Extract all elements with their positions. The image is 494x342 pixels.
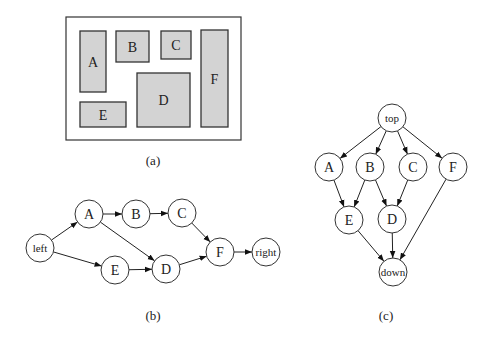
- node-label: B: [365, 160, 374, 175]
- edge-left-to-e: [53, 252, 101, 266]
- edge-top-to-b: [376, 131, 387, 154]
- edge-a-to-d: [100, 222, 154, 261]
- box-label: F: [211, 72, 219, 87]
- node-label: C: [408, 160, 417, 175]
- layout-box-f: F: [201, 30, 228, 127]
- node-label: F: [449, 160, 457, 175]
- node-a: A: [315, 153, 343, 181]
- layout-box-b: B: [116, 31, 149, 62]
- node-d: D: [152, 255, 180, 283]
- layout-box-c: C: [161, 31, 191, 59]
- box-label: D: [158, 93, 168, 108]
- node-right: right: [252, 238, 280, 266]
- panel-b-horizontal-graph: leftABCEDFright: [26, 199, 280, 284]
- edge-top-to-c: [398, 131, 408, 154]
- edge-b-to-d: [375, 180, 386, 206]
- node-label: B: [131, 207, 140, 222]
- node-top: top: [378, 104, 406, 132]
- node-label: A: [324, 160, 335, 175]
- edge-left-to-a: [52, 222, 78, 240]
- box-label: A: [88, 55, 99, 70]
- node-f: F: [439, 153, 467, 181]
- node-label: D: [387, 212, 397, 227]
- node-label: C: [177, 206, 186, 221]
- edge-f-to-down: [400, 179, 446, 260]
- edge-c-to-d: [397, 180, 408, 206]
- node-label: down: [381, 266, 406, 278]
- layout-box-d: D: [137, 73, 190, 127]
- node-label: E: [111, 263, 120, 278]
- edge-e-to-down: [358, 231, 384, 262]
- node-c: C: [399, 153, 427, 181]
- panel-c-vertical-graph: topABCFEDdown: [315, 104, 467, 286]
- node-label: right: [256, 246, 277, 258]
- node-d: D: [378, 205, 406, 233]
- caption-c: (c): [379, 308, 393, 323]
- node-left: left: [26, 234, 54, 262]
- node-down: down: [379, 258, 407, 286]
- caption-a: (a): [146, 153, 160, 168]
- node-c: C: [168, 199, 196, 227]
- node-e: E: [335, 206, 363, 234]
- layout-box-e: E: [80, 102, 126, 127]
- box-label: C: [171, 38, 180, 53]
- node-f: F: [206, 238, 234, 266]
- edge-a-to-e: [334, 180, 344, 207]
- caption-b: (b): [145, 308, 160, 323]
- edge-c-to-f: [192, 223, 210, 242]
- diagram-canvas: ABCDEF leftABCEDFright topABCFEDdown (a)…: [0, 0, 494, 342]
- box-label: E: [99, 108, 108, 123]
- node-label: top: [385, 112, 400, 124]
- node-b: B: [122, 200, 150, 228]
- layout-box-a: A: [80, 31, 106, 92]
- node-a: A: [75, 200, 103, 228]
- node-label: E: [345, 213, 354, 228]
- node-e: E: [101, 256, 129, 284]
- node-label: D: [161, 262, 171, 277]
- box-label: B: [128, 40, 137, 55]
- node-label: A: [84, 207, 95, 222]
- node-label: left: [33, 242, 48, 254]
- node-label: F: [216, 245, 224, 260]
- panel-a-rectangle-layout: ABCDEF: [66, 17, 241, 140]
- edge-d-to-f: [179, 256, 206, 265]
- node-b: B: [356, 153, 384, 181]
- edge-b-to-e: [354, 180, 365, 207]
